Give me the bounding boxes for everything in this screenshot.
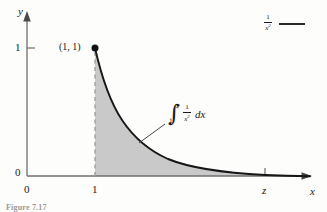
figure-caption: Figure 7.17	[6, 203, 47, 212]
integrand-numerator: 1	[184, 104, 190, 111]
differential-dx: dx	[195, 108, 205, 120]
integral-lower-limit: 1	[169, 118, 173, 123]
y-tick-label-0: 0	[15, 167, 21, 178]
figure-container: y x 1 0 0 1 z (1, 1) ∫ z 1 1 x2 dx 1 x2 …	[0, 0, 327, 212]
y-tick-label-1: 1	[15, 42, 21, 53]
legend-line-swatch	[279, 23, 305, 25]
y-axis-label: y	[18, 6, 23, 17]
x-tick-label-1: 1	[92, 184, 98, 195]
legend-fraction: 1 x2	[264, 14, 272, 33]
integral-sign: ∫ z 1	[168, 104, 180, 124]
point-marker-1-1	[92, 45, 99, 52]
annotation-leader-line	[139, 124, 165, 143]
integral-annotation: ∫ z 1 1 x2 dx	[168, 104, 205, 124]
legend-denominator: x2	[264, 23, 272, 33]
x-tick-label-z: z	[262, 185, 266, 196]
x-axis-label: x	[310, 186, 315, 197]
legend: 1 x2	[262, 14, 305, 33]
point-label-1-1: (1, 1)	[59, 42, 81, 52]
integrand-fraction: 1 x2	[183, 104, 191, 123]
x-tick-label-0: 0	[24, 184, 30, 195]
integral-upper-limit: z	[176, 103, 179, 108]
legend-numerator: 1	[265, 14, 271, 21]
y-axis-arrowhead	[23, 11, 31, 22]
integrand-denominator: x2	[183, 114, 191, 124]
